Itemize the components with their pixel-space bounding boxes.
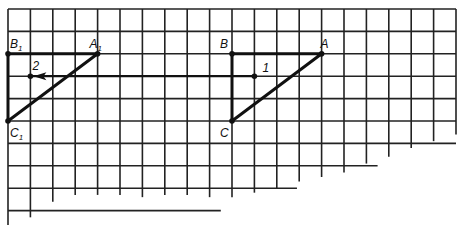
point-p2 — [28, 73, 34, 79]
point-c — [229, 118, 235, 124]
label-subscript: 1 — [19, 133, 23, 142]
label-c: C — [220, 126, 229, 140]
label-c1: C1 — [10, 126, 23, 142]
point-c1 — [5, 118, 11, 124]
label-main: C — [10, 126, 19, 140]
label-main: A — [89, 37, 98, 51]
label-main: 1 — [262, 61, 269, 75]
label-main: B — [220, 37, 228, 51]
translation-diagram: ABCA1B1C112 — [0, 0, 468, 225]
label-b1: B1 — [10, 37, 22, 53]
label-a1: A1 — [89, 37, 102, 53]
label-b: B — [220, 37, 228, 51]
label-main: A — [320, 37, 329, 51]
point-b — [229, 51, 235, 57]
point-a — [319, 51, 325, 57]
point-p1 — [252, 73, 258, 79]
label-subscript: 1 — [98, 44, 102, 53]
label-subscript: 1 — [18, 44, 22, 53]
label-p1: 1 — [262, 61, 269, 75]
label-a: A — [320, 37, 329, 51]
label-main: 2 — [31, 59, 39, 73]
point-b1 — [5, 51, 11, 57]
label-main: B — [10, 37, 18, 51]
label-p2: 2 — [31, 59, 39, 73]
label-main: C — [220, 126, 229, 140]
